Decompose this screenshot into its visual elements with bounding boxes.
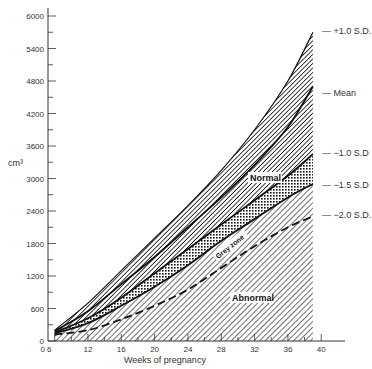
y-tick-label: 4200	[26, 110, 44, 119]
x-tick-label: 0 6	[40, 345, 52, 354]
zone-label-abnormal: Abnormal	[230, 292, 274, 303]
x-tick-label: 36	[283, 345, 292, 354]
label-sd-minus2: — −2.0 S.D.	[322, 210, 371, 220]
label-sd-minus15: — −1.5 S.D	[322, 180, 369, 190]
svg-text:Abnormal: Abnormal	[232, 293, 274, 303]
x-axis-title: Weeks of pregnancy	[124, 355, 206, 365]
y-tick-label: 600	[31, 305, 45, 314]
y-tick-label: 3000	[26, 175, 44, 184]
x-tick-label: 24	[183, 345, 192, 354]
y-tick-label: 1800	[26, 240, 44, 249]
y-tick-label: 1200	[26, 272, 44, 281]
y-tick-label: 3600	[26, 142, 44, 151]
y-tick-label: 5400	[26, 45, 44, 54]
y-tick-label: 6000	[26, 12, 44, 21]
y-tick-label: 4800	[26, 77, 44, 86]
y-tick-label: 2400	[26, 207, 44, 216]
x-tick-label: 32	[250, 345, 259, 354]
label-sd-plus1: — +1.0 S.D.	[322, 26, 371, 36]
label-sd-minus1: — −1.0 S.D	[322, 148, 369, 158]
x-tick-label: 16	[117, 345, 126, 354]
x-tick-label: 28	[217, 345, 226, 354]
fetal-volume-chart: 0600120018002400300036004200480054006000…	[0, 0, 372, 369]
label-mean: — Mean	[322, 88, 356, 98]
zone-label-normal: Normal	[248, 172, 282, 183]
y-axis-unit: cm³	[8, 158, 23, 168]
x-tick-label: 40	[317, 345, 326, 354]
svg-text:Normal: Normal	[250, 173, 281, 183]
x-tick-label: 12	[84, 345, 93, 354]
x-tick-label: 20	[150, 345, 159, 354]
